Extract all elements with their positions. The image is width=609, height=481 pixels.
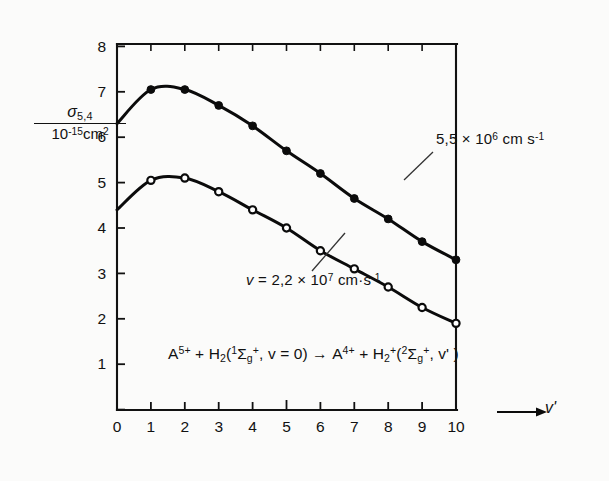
y-axis-ticks <box>117 46 125 409</box>
x-axis-title: v' <box>545 400 556 417</box>
upper-label-leader <box>404 152 433 180</box>
y-axis-label-numerator: σ5,4 <box>34 104 126 124</box>
y-axis-label-denominator: 10-15cm2 <box>34 124 126 142</box>
data-point <box>317 170 325 178</box>
data-point <box>283 147 291 155</box>
y-tick-7: 7 <box>97 83 106 100</box>
x-tick-4: 4 <box>248 418 257 435</box>
y-tick-labels: 8 7 6 5 4 3 2 1 <box>97 38 106 373</box>
series-2-line <box>117 176 456 323</box>
data-point <box>283 224 290 231</box>
x-tick-6: 6 <box>316 418 325 435</box>
x-tick-0: 0 <box>113 418 122 435</box>
x-tick-3: 3 <box>214 418 223 435</box>
data-point <box>181 86 189 94</box>
data-point <box>452 320 459 327</box>
x-tick-10: 10 <box>447 418 465 435</box>
data-point <box>215 188 222 195</box>
data-point <box>181 174 188 181</box>
x-tick-7: 7 <box>350 418 359 435</box>
y-tick-2: 2 <box>97 310 106 327</box>
data-point <box>452 256 460 264</box>
x-tick-2: 2 <box>180 418 189 435</box>
y-tick-1: 1 <box>97 355 106 372</box>
y-tick-8: 8 <box>97 38 106 55</box>
data-point <box>147 86 155 94</box>
plot-svg: 8 7 6 5 4 3 2 1 0 1 2 3 4 5 6 7 8 9 10 <box>0 0 609 481</box>
x-tick-1: 1 <box>147 418 156 435</box>
data-point <box>249 122 257 130</box>
data-point <box>350 195 358 203</box>
x-tick-5: 5 <box>282 418 291 435</box>
y-tick-4: 4 <box>97 219 106 236</box>
x-tick-9: 9 <box>418 418 427 435</box>
data-point <box>385 283 392 290</box>
series-1 <box>117 86 460 264</box>
x-axis-ticks <box>117 400 456 410</box>
upper-curve-annotation: 5,5 × 106 cm s-1 <box>436 131 544 147</box>
y-tick-5: 5 <box>97 174 106 191</box>
y-axis-label: σ5,4 10-15cm2 <box>34 104 126 142</box>
data-point <box>419 304 426 311</box>
data-point <box>249 206 256 213</box>
data-point <box>317 247 324 254</box>
figure-canvas: 8 7 6 5 4 3 2 1 0 1 2 3 4 5 6 7 8 9 10 <box>0 0 609 481</box>
data-point <box>215 102 223 110</box>
x-axis-arrow <box>497 408 547 417</box>
x-tick-labels: 0 1 2 3 4 5 6 7 8 9 10 <box>113 418 465 435</box>
x-tick-8: 8 <box>384 418 393 435</box>
lower-curve-annotation: v = 2,2 × 107 cm·s-1 <box>246 272 381 288</box>
series-1-line <box>117 86 456 259</box>
data-point <box>147 177 154 184</box>
data-point <box>418 238 426 246</box>
y-tick-3: 3 <box>97 265 106 282</box>
reaction-equation: A5+ + H2(1Σg+, v = 0) → A4+ + H2+(2Σg+, … <box>168 345 459 364</box>
data-point <box>384 215 392 223</box>
series-2 <box>117 174 460 326</box>
data-series-layer <box>117 86 460 327</box>
